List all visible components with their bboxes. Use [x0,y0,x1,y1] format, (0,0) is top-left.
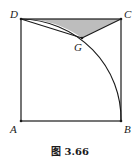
label-g: G [74,42,82,53]
point-g [81,37,84,40]
label-a: A [10,124,17,135]
label-d: D [10,9,18,20]
label-b: B [124,124,131,135]
point-d [20,18,23,21]
label-c: C [124,9,131,20]
geometry-figure [0,0,140,160]
point-c [120,18,123,21]
point-a [20,120,23,123]
point-b [120,120,123,123]
figure-caption: 图 3.66 [0,143,140,158]
